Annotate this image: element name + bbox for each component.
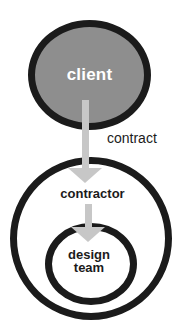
org-structure-diagram: client contract contractor design team xyxy=(0,0,179,331)
contract-edge-label: contract xyxy=(107,130,157,146)
contractor-label: contractor xyxy=(3,187,179,201)
arrow-head xyxy=(71,227,105,242)
client-label: client xyxy=(67,65,113,85)
design-team-label: design team xyxy=(63,248,115,274)
arrow-shaft xyxy=(85,204,92,228)
arrow-shaft xyxy=(82,100,89,169)
arrow-head xyxy=(68,168,102,183)
client-node: client xyxy=(28,20,151,130)
